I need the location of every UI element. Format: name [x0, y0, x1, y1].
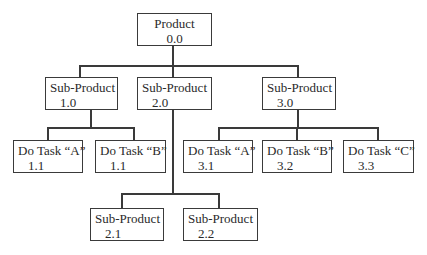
node-task-a-1-1: Do Task “A” 1.1 [13, 140, 83, 173]
node-title: Do Task “B” [267, 143, 327, 158]
connector-2-2-drop [218, 193, 220, 208]
connector-level1-bar [79, 65, 298, 67]
node-title: Sub-Product [188, 211, 253, 226]
node-task-b-3-2: Do Task “B” 3.2 [262, 140, 332, 173]
connector-1-1b-drop [133, 127, 135, 140]
node-number: 1.0 [50, 95, 113, 110]
node-sub-product-2-0: Sub-Product 2.0 [137, 77, 212, 110]
node-number: 3.0 [267, 95, 331, 110]
node-sub-product-2-2: Sub-Product 2.2 [183, 208, 258, 241]
node-product-0-0: Product 0.0 [137, 13, 212, 46]
node-number: 1.1 [100, 158, 161, 173]
connector-1-1a-drop [47, 127, 49, 140]
connector-3-1-drop [218, 127, 220, 140]
node-number: 2.2 [188, 226, 253, 241]
node-number: 3.3 [348, 158, 409, 173]
connector-root-stem [172, 45, 174, 77]
connector-3-0-stem [297, 109, 299, 127]
connector-3-3-drop [377, 127, 379, 140]
node-number: 2.0 [142, 95, 207, 110]
connector-1-0-bar [47, 127, 134, 129]
node-number: 0.0 [142, 31, 207, 46]
node-title: Product [142, 16, 207, 31]
node-title: Do Task “C” [348, 143, 409, 158]
node-title: Sub-Product [95, 211, 159, 226]
connector-3-0-bar [218, 127, 378, 129]
node-number: 2.1 [95, 226, 159, 241]
node-sub-product-2-1: Sub-Product 2.1 [90, 208, 164, 241]
connector-2-1-drop [121, 193, 123, 208]
node-title: Do Task “A” [18, 143, 78, 158]
connector-1-0-drop [79, 65, 81, 77]
connector-3-0-drop [297, 65, 299, 77]
node-task-a-3-1: Do Task “A” 3.1 [183, 140, 253, 173]
connector-1-0-stem [90, 109, 92, 127]
node-sub-product-1-0: Sub-Product 1.0 [45, 77, 118, 110]
node-title: Do Task “A” [188, 143, 248, 158]
connector-2-0-bar [121, 193, 219, 195]
connector-2-0-stem [172, 109, 174, 193]
node-title: Sub-Product [50, 80, 113, 95]
node-sub-product-3-0: Sub-Product 3.0 [262, 77, 336, 110]
node-number: 3.1 [188, 158, 248, 173]
node-title: Do Task “B” [100, 143, 161, 158]
node-title: Sub-Product [142, 80, 207, 95]
node-title: Sub-Product [267, 80, 331, 95]
node-number: 3.2 [267, 158, 327, 173]
node-task-c-3-3: Do Task “C” 3.3 [343, 140, 414, 173]
connector-3-2-drop [296, 127, 298, 140]
node-task-b-1-1: Do Task “B” 1.1 [95, 140, 166, 173]
node-number: 1.1 [18, 158, 78, 173]
